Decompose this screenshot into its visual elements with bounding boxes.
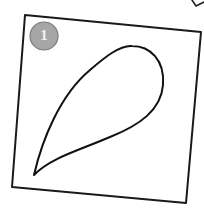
badge-number: 1 — [30, 23, 58, 47]
teardrop-shape — [34, 46, 163, 175]
corner-mark — [192, 0, 204, 6]
